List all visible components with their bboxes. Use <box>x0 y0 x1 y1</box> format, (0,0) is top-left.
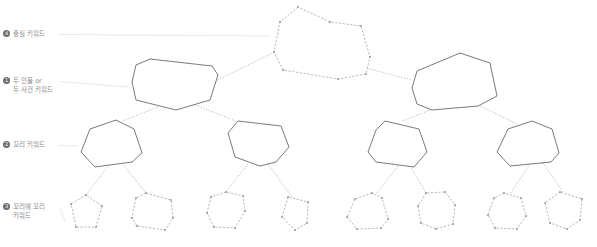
vertex-dot <box>210 196 212 198</box>
connector-line <box>480 106 517 124</box>
vertex-dot <box>435 228 437 230</box>
step-number-badge: 3 <box>3 203 10 210</box>
vertex-dot <box>172 217 174 219</box>
tail-of-tail-keyword-shape <box>70 194 103 228</box>
vertex-dot <box>282 69 284 71</box>
connector-line <box>543 163 563 192</box>
tail-keyword-shape <box>228 121 289 166</box>
vertex-dot <box>520 197 522 199</box>
vertex-dot <box>346 216 348 218</box>
tail-of-tail-keyword-shape <box>206 191 246 229</box>
vertex-dot <box>566 228 568 230</box>
vertex-dot <box>454 204 456 206</box>
connector-line <box>268 164 292 197</box>
connector-line <box>410 166 426 193</box>
connector-line <box>218 52 274 80</box>
vertex-dot <box>135 197 137 199</box>
connector-line <box>402 109 433 121</box>
vertex-dot <box>487 214 489 216</box>
vertex-dot <box>549 222 551 224</box>
label-text-line2: 키워드 <box>3 212 45 221</box>
vertex-dot <box>525 215 527 217</box>
vertex-dot <box>494 227 496 229</box>
vertex-dot <box>516 228 518 230</box>
tail-of-tail-keyword-shape <box>417 191 456 230</box>
vertex-dot <box>329 21 331 23</box>
vertex-dot <box>381 197 383 199</box>
vertex-dot <box>242 195 244 197</box>
vertex-dot <box>371 192 373 194</box>
label-center-keyword: 4중심 키워드 <box>3 30 45 39</box>
vertex-dot <box>281 216 283 218</box>
vertex-dot <box>85 194 87 196</box>
tail-of-tail-keyword-shape <box>346 192 389 230</box>
vertex-dot <box>503 192 505 194</box>
vertex-dot <box>420 222 422 224</box>
vertex-dot <box>297 6 299 8</box>
vertex-dot <box>170 199 172 201</box>
vertex-dot <box>493 197 495 199</box>
vertex-dot <box>337 78 339 80</box>
label-two-person-keyword: 1두 인물 or 두 사건 키워드 <box>3 77 53 95</box>
label-text: 중심 키워드 <box>13 30 45 38</box>
vertex-dot <box>452 223 454 225</box>
label-text-line2: 두 사건 키워드 <box>3 86 53 95</box>
label-text: 두 인물 or <box>13 77 42 85</box>
vertex-dot <box>417 205 419 207</box>
vertex-dot <box>365 73 367 75</box>
connector-line <box>86 165 109 195</box>
step-number-badge: 1 <box>3 77 10 84</box>
leader-line <box>60 82 128 88</box>
tail-keyword-shape <box>497 121 559 166</box>
vertex-dot <box>369 56 371 58</box>
main-keyword-shape <box>412 53 497 110</box>
vertex-dot <box>294 229 296 231</box>
vertex-dot <box>307 201 309 203</box>
label-tail-of-tail-keyword: 3꼬리에 꼬리 키워드 <box>3 203 45 221</box>
vertex-dot <box>136 225 138 227</box>
vertex-dot <box>234 227 236 229</box>
vertex-dot <box>579 219 581 221</box>
connector-line <box>193 104 238 122</box>
vertex-dot <box>444 191 446 193</box>
vertex-dot <box>213 226 215 228</box>
vertex-dot <box>164 229 166 231</box>
vertex-dot <box>244 210 246 212</box>
tail-of-tail-keyword-shape <box>281 196 309 231</box>
leader-line <box>58 146 78 147</box>
step-number-badge: 4 <box>3 30 10 37</box>
vertex-dot <box>287 196 289 198</box>
tail-keyword-shape <box>81 120 142 167</box>
vertex-dot <box>101 205 103 207</box>
label-text: 꼬리 키워드 <box>13 141 45 149</box>
tail-keyword-shape <box>368 121 427 167</box>
connector-line <box>366 68 412 80</box>
vertex-dot <box>225 191 227 193</box>
vertex-dot <box>380 227 382 229</box>
vertex-dot <box>354 198 356 200</box>
vertex-dot <box>581 198 583 200</box>
tail-of-tail-keyword-shape <box>131 192 174 231</box>
vertex-dot <box>206 212 208 214</box>
vertex-dot <box>131 217 133 219</box>
step-number-badge: 2 <box>3 141 10 148</box>
vertex-dot <box>306 222 308 224</box>
vertex-dot <box>273 51 275 53</box>
connector-line <box>226 164 248 192</box>
vertex-dot <box>425 192 427 194</box>
vertex-dot <box>387 218 389 220</box>
vertex-dot <box>279 21 281 23</box>
connector-line <box>376 166 398 194</box>
keyword-tree-diagram <box>0 0 597 247</box>
tail-of-tail-keyword-shape <box>487 192 527 230</box>
vertex-dot <box>559 191 561 193</box>
vertex-dot <box>95 226 97 228</box>
vertex-dot <box>70 203 72 205</box>
label-tail-keyword: 2꼬리 키워드 <box>3 141 45 150</box>
center-keyword-shape <box>273 6 371 80</box>
connector-line <box>122 107 158 121</box>
vertex-dot <box>356 228 358 230</box>
vertex-dot <box>145 192 147 194</box>
vertex-dot <box>360 25 362 27</box>
leader-line <box>60 208 65 222</box>
